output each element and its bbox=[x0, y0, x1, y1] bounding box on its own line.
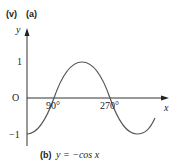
y-tick-1: 1 bbox=[17, 56, 22, 67]
x-tick-90: 90° bbox=[46, 100, 60, 111]
y-tick-neg1: −1 bbox=[9, 129, 20, 140]
y-axis-label: y bbox=[16, 24, 20, 35]
origin-label: O bbox=[12, 92, 19, 103]
x-axis-label: x bbox=[164, 102, 168, 113]
x-tick-270: 270° bbox=[100, 100, 119, 111]
x-axis-arrow-icon bbox=[161, 96, 169, 101]
graph bbox=[0, 0, 175, 164]
caption-label: (b) bbox=[40, 150, 52, 160]
y-axis-arrow-icon bbox=[25, 28, 30, 36]
caption-equation: y = −cos x bbox=[56, 149, 99, 160]
